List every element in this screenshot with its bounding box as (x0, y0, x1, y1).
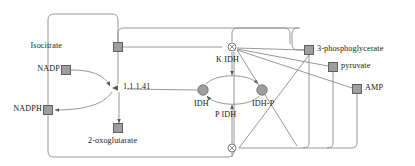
edge-pidh-fan-upper (237, 50, 297, 146)
rail-amp-to-pidh (327, 94, 357, 148)
label-idh: IDH (194, 100, 209, 108)
label-2-oxoglutarate: 2-oxoglutarate (88, 137, 137, 145)
edge-isocitrate-upper-branch (118, 28, 290, 44)
edge-nadp-to-reaction (71, 70, 110, 86)
label-pyruvate: pyruvate (341, 62, 370, 70)
node-k-idh-junction[interactable] (228, 43, 236, 51)
edge-3pg-hook (292, 28, 304, 50)
label-isocitrate: Isocitrate (31, 42, 62, 50)
node-nadp[interactable] (62, 66, 71, 75)
enzyme-node-layer (198, 85, 267, 95)
label-k-idh: K IDH (216, 56, 239, 64)
diagram-canvas (0, 0, 415, 166)
label-p-idh: P IDH (215, 111, 236, 119)
edge-reaction-to-nadph (55, 92, 112, 110)
label-nadph: NADPH (13, 105, 42, 113)
label-nadp: NADP (37, 65, 60, 73)
node-pyruvate[interactable] (329, 63, 338, 72)
node-p-idh-junction[interactable] (228, 144, 236, 152)
label-idh-p: IDH-P (252, 100, 274, 108)
rail-pyruvate-to-pidh (303, 72, 333, 148)
node-2-oxoglutarate[interactable] (114, 124, 123, 133)
node-amp[interactable] (353, 85, 362, 94)
label-amp: AMP (365, 84, 383, 92)
node-nadph[interactable] (44, 106, 53, 115)
label-reaction-1-1-1-41: 1.1.1.41 (123, 83, 150, 91)
node-idh[interactable] (198, 85, 208, 95)
edge-idh-to-idhp-upper (206, 76, 258, 84)
edge-kidh-from-pyruvate (237, 49, 328, 66)
node-isocitrate[interactable] (114, 43, 123, 52)
pathway-diagram: Isocitrate NADP NADPH 2-oxoglutarate IDH… (0, 0, 415, 166)
label-3-phosphoglycerate: 3-phosphoglycerate (317, 45, 383, 53)
node-3-phosphoglycerate[interactable] (305, 46, 314, 55)
node-idh-p[interactable] (257, 85, 267, 95)
node-reaction-1-1-1-41-arrowhead[interactable] (112, 85, 118, 91)
